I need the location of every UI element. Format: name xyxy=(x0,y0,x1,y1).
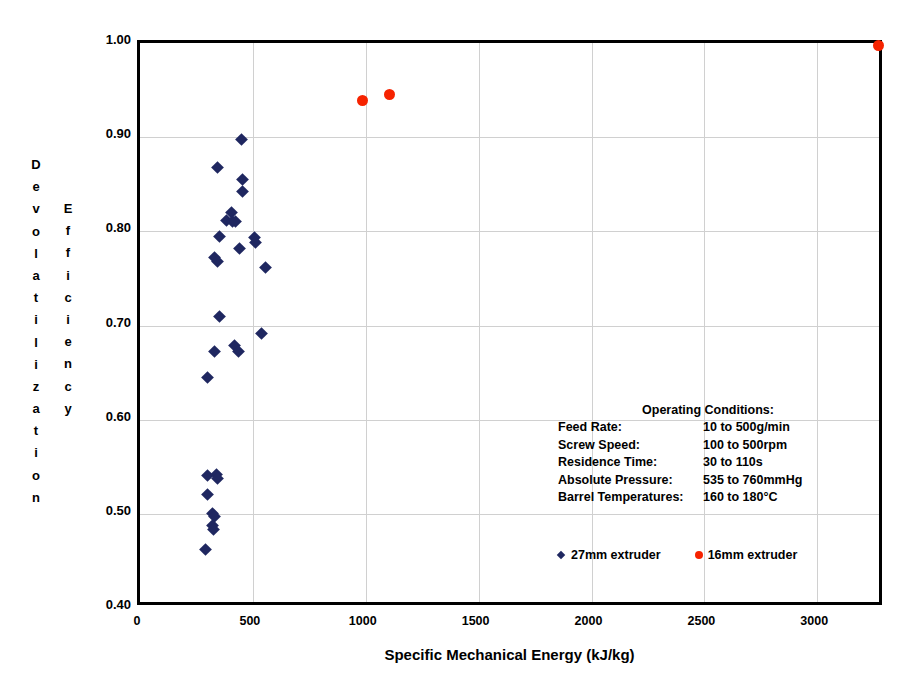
data-point-diamond xyxy=(201,371,214,384)
data-point-circle xyxy=(357,95,368,106)
y-axis-title-letter: i xyxy=(59,265,77,287)
legend-item[interactable]: 16mm extruder xyxy=(695,548,798,562)
legend-diamond-icon xyxy=(557,551,565,559)
operating-condition-value: 10 to 500g/min xyxy=(703,419,858,436)
y-axis-title-letter: c xyxy=(59,287,77,309)
vertical-gridline xyxy=(704,43,705,602)
y-axis-title-letter: n xyxy=(59,353,77,375)
y-axis-title-letter: e xyxy=(59,331,77,353)
y-axis-title-letter: y xyxy=(59,398,77,420)
y-axis-title-letter: E xyxy=(59,198,77,220)
horizontal-gridline xyxy=(140,326,879,327)
x-axis-title: Specific Mechanical Energy (kJ/kg) xyxy=(137,646,882,663)
data-point-diamond xyxy=(212,161,225,174)
y-axis-title-letter: D xyxy=(27,154,45,176)
plot-inner xyxy=(140,43,879,602)
chart-legend: 27mm extruder16mm extruder xyxy=(558,548,797,562)
legend-item[interactable]: 27mm extruder xyxy=(558,548,661,562)
x-axis-tick-label: 2000 xyxy=(559,614,619,628)
y-axis-title-letter: z xyxy=(27,376,45,398)
operating-condition-key: Residence Time: xyxy=(558,454,703,471)
data-point-diamond xyxy=(259,261,272,274)
y-axis-title-letter: f xyxy=(59,220,77,242)
y-axis-title-letter: l xyxy=(27,243,45,265)
data-point-diamond xyxy=(208,345,221,358)
data-point-circle xyxy=(873,40,884,51)
data-point-diamond xyxy=(233,345,246,358)
operating-conditions-rows: Feed Rate:10 to 500g/minScrew Speed:100 … xyxy=(558,419,858,506)
y-axis-title-letter: o xyxy=(27,221,45,243)
y-axis-tick-label: 0.60 xyxy=(87,409,131,424)
operating-condition-value: 535 to 760mmHg xyxy=(703,472,858,489)
vertical-gridline xyxy=(592,43,593,602)
y-axis-title-letter: i xyxy=(59,309,77,331)
vertical-gridline xyxy=(479,43,480,602)
operating-condition-value: 100 to 500rpm xyxy=(703,437,858,454)
operating-condition-key: Screw Speed: xyxy=(558,437,703,454)
legend-circle-icon xyxy=(695,551,703,559)
operating-condition-row: Feed Rate:10 to 500g/min xyxy=(558,419,858,436)
y-axis-tick-labels: 0.400.500.600.700.800.901.00 xyxy=(85,0,131,700)
x-axis-tick-label: 1000 xyxy=(333,614,393,628)
horizontal-gridline xyxy=(140,231,879,232)
y-axis-title-letter: o xyxy=(27,465,45,487)
y-axis-title-letter: i xyxy=(27,309,45,331)
data-point-circle xyxy=(384,89,395,100)
operating-condition-key: Feed Rate: xyxy=(558,419,703,436)
y-axis-title-letter: l xyxy=(27,332,45,354)
vertical-gridline xyxy=(817,43,818,602)
horizontal-gridline xyxy=(140,137,879,138)
operating-condition-row: Barrel Temperatures:160 to 180°C xyxy=(558,489,858,506)
y-axis-title-letter: a xyxy=(27,265,45,287)
vertical-gridline xyxy=(253,43,254,602)
y-axis-tick-label: 1.00 xyxy=(87,32,131,47)
plot-area xyxy=(137,40,882,605)
data-point-diamond xyxy=(235,134,248,147)
data-point-diamond xyxy=(201,488,214,501)
y-axis-title-letter: e xyxy=(27,176,45,198)
y-axis-title-letter: t xyxy=(27,287,45,309)
vertical-gridline xyxy=(366,43,367,602)
data-point-diamond xyxy=(213,310,226,323)
y-axis-title-column-efficiency: Efficiency xyxy=(59,198,77,420)
data-point-diamond xyxy=(236,185,249,198)
operating-condition-key: Barrel Temperatures: xyxy=(558,489,703,506)
scatter-chart-figure: Devolatilization Efficiency 0.400.500.60… xyxy=(0,0,909,700)
y-axis-tick-label: 0.70 xyxy=(87,315,131,330)
y-axis-title-letter: n xyxy=(27,487,45,509)
operating-conditions-annotation: Operating Conditions: Feed Rate:10 to 50… xyxy=(558,402,858,506)
y-axis-title-letter: c xyxy=(59,376,77,398)
x-axis-tick-label: 500 xyxy=(220,614,280,628)
y-axis-tick-label: 0.80 xyxy=(87,220,131,235)
y-axis-tick-label: 0.50 xyxy=(87,503,131,518)
y-axis-title-letter: i xyxy=(27,442,45,464)
y-axis-title-letter: t xyxy=(27,420,45,442)
x-axis-tick-label: 0 xyxy=(107,614,167,628)
y-axis-title-letter: i xyxy=(27,354,45,376)
y-axis-title-letter: v xyxy=(27,198,45,220)
y-axis-tick-label: 0.90 xyxy=(87,126,131,141)
operating-conditions-title: Operating Conditions: xyxy=(558,402,858,419)
y-axis-title-letter: f xyxy=(59,242,77,264)
operating-condition-key: Absolute Pressure: xyxy=(558,472,703,489)
x-axis-tick-label: 2500 xyxy=(671,614,731,628)
operating-condition-row: Absolute Pressure:535 to 760mmHg xyxy=(558,472,858,489)
legend-label: 27mm extruder xyxy=(571,548,661,562)
horizontal-gridline xyxy=(140,514,879,515)
y-axis-title-letter: a xyxy=(27,398,45,420)
data-point-diamond xyxy=(233,242,246,255)
y-axis-tick-label: 0.40 xyxy=(87,597,131,612)
legend-label: 16mm extruder xyxy=(708,548,798,562)
y-axis-title-column-devolatilization: Devolatilization xyxy=(27,154,45,509)
x-axis-tick-label: 1500 xyxy=(446,614,506,628)
operating-condition-value: 30 to 110s xyxy=(703,454,858,471)
x-axis-tick-labels: 050010001500200025003000 xyxy=(0,614,909,634)
operating-condition-value: 160 to 180°C xyxy=(703,489,858,506)
data-point-diamond xyxy=(199,543,212,556)
operating-condition-row: Screw Speed:100 to 500rpm xyxy=(558,437,858,454)
operating-condition-row: Residence Time:30 to 110s xyxy=(558,454,858,471)
x-axis-tick-label: 3000 xyxy=(784,614,844,628)
data-point-diamond xyxy=(256,327,269,340)
